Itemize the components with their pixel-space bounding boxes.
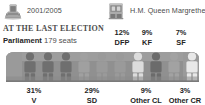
party-label-other-cr: 3% Other CR — [166, 86, 204, 104]
party-label-sd: 29% SD — [78, 86, 106, 104]
term-years-label: 2001/2005 — [27, 7, 62, 14]
parliament-seats-svg — [0, 49, 205, 85]
parliament-pictogram — [0, 49, 205, 85]
parliament-infographic: 2001/2005 H.M. Queen Margrethe II — [0, 0, 205, 104]
monarch-name-label: H.M. Queen Margrethe II — [130, 7, 205, 14]
top-info-row: 2001/2005 H.M. Queen Margrethe II — [0, 0, 205, 22]
lower-party-labels: 31% V 29% SD 9% Other CL 3% Other CR — [0, 85, 205, 104]
throne-icon — [3, 1, 23, 21]
party-name-other-cr: Other CR — [166, 96, 204, 105]
party-pct-other-cl: 9% — [127, 86, 165, 96]
party-label-dfp: 12% DFP — [110, 28, 134, 47]
party-name-sf: SF — [170, 38, 192, 48]
party-name-other-cl: Other CL — [127, 96, 165, 105]
upper-party-labels: 12% DFP 9% KF 7% SF — [0, 28, 205, 50]
party-pct-v: 31% — [20, 86, 48, 96]
party-name-kf: KF — [136, 38, 158, 48]
party-pct-other-cr: 3% — [166, 86, 204, 96]
party-label-sf: 7% SF — [170, 28, 192, 47]
crown-monarch-icon — [106, 1, 126, 21]
party-name-dfp: DFP — [110, 38, 134, 48]
monarch-info-item: H.M. Queen Margrethe II — [106, 0, 205, 22]
party-label-other-cl: 9% Other CL — [127, 86, 165, 104]
term-info-item: 2001/2005 — [3, 0, 62, 22]
party-pct-dfp: 12% — [110, 28, 134, 38]
party-name-sd: SD — [78, 96, 106, 105]
party-pct-kf: 9% — [136, 28, 158, 38]
party-pct-sf: 7% — [170, 28, 192, 38]
party-pct-sd: 29% — [78, 86, 106, 96]
party-label-v: 31% V — [20, 86, 48, 104]
party-name-v: V — [20, 96, 48, 105]
party-label-kf: 9% KF — [136, 28, 158, 47]
